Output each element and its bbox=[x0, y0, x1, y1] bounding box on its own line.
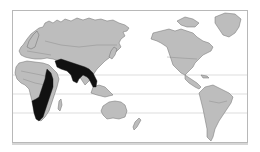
australia-landmass bbox=[101, 101, 127, 119]
world-map bbox=[12, 10, 248, 143]
map-canvas bbox=[13, 11, 248, 143]
madagascar-island bbox=[58, 99, 62, 111]
arctic-islands bbox=[177, 17, 199, 27]
caribbean-islands bbox=[201, 75, 209, 78]
frame-bottom-edge bbox=[12, 143, 248, 145]
new-zealand-islands bbox=[133, 118, 141, 130]
greenland-landmass bbox=[215, 13, 241, 37]
north-america-landmass bbox=[151, 29, 213, 75]
central-america-landmass bbox=[185, 75, 201, 89]
